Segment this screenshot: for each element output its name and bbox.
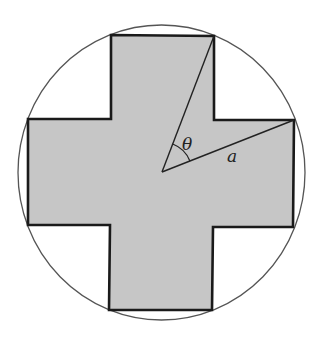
cross-shape <box>28 35 294 310</box>
cross-in-circle-diagram: θ a <box>0 0 323 337</box>
theta-label: θ <box>182 134 192 154</box>
radius-a-label: a <box>227 146 237 166</box>
